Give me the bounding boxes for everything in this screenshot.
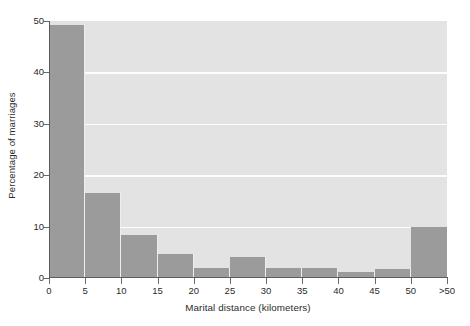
x-tick-label: 5	[65, 286, 105, 296]
gridline	[49, 124, 447, 125]
x-tick-mark	[447, 278, 448, 284]
x-tick-label: 35	[282, 286, 322, 296]
bar	[85, 193, 121, 278]
y-axis-tick-labels: 01020304050	[20, 0, 44, 326]
histogram-figure: Percentage of marriages 01020304050 0510…	[0, 0, 470, 326]
plot-area	[49, 21, 447, 278]
x-tick-mark	[121, 278, 122, 284]
bar	[230, 257, 266, 278]
x-tick-mark	[375, 278, 376, 284]
bar	[411, 227, 447, 278]
y-tick-label: 20	[20, 170, 44, 180]
bar	[121, 235, 157, 278]
x-tick-label: 45	[355, 286, 395, 296]
x-tick-mark	[302, 278, 303, 284]
x-tick-mark	[338, 278, 339, 284]
x-tick-label: 30	[246, 286, 286, 296]
x-tick-label: 20	[174, 286, 214, 296]
bar	[158, 254, 194, 278]
x-tick-mark	[411, 278, 412, 284]
y-tick-label: 10	[20, 222, 44, 232]
x-tick-label: 10	[101, 286, 141, 296]
x-tick-mark	[194, 278, 195, 284]
x-tick-label: 40	[318, 286, 358, 296]
y-tick-label: 50	[20, 16, 44, 26]
x-tick-mark	[158, 278, 159, 284]
y-tick-label: 30	[20, 119, 44, 129]
x-tick-label: 15	[138, 286, 178, 296]
y-tick-label: 0	[20, 273, 44, 283]
x-tick-mark	[266, 278, 267, 284]
y-axis-line	[49, 21, 50, 278]
gridline	[49, 72, 447, 73]
x-tick-label: >50	[427, 286, 467, 296]
x-tick-label: 25	[210, 286, 250, 296]
bar	[49, 25, 85, 278]
x-tick-mark	[230, 278, 231, 284]
y-axis-title: Percentage of marriages	[0, 0, 22, 290]
gridline	[49, 175, 447, 176]
y-tick-label: 40	[20, 68, 44, 78]
x-tick-label: 0	[29, 286, 69, 296]
x-tick-mark	[85, 278, 86, 284]
y-axis-title-text: Percentage of marriages	[6, 92, 17, 198]
x-tick-label: 50	[391, 286, 431, 296]
x-tick-mark	[49, 278, 50, 284]
x-axis-title: Marital distance (kilometers)	[49, 302, 447, 313]
